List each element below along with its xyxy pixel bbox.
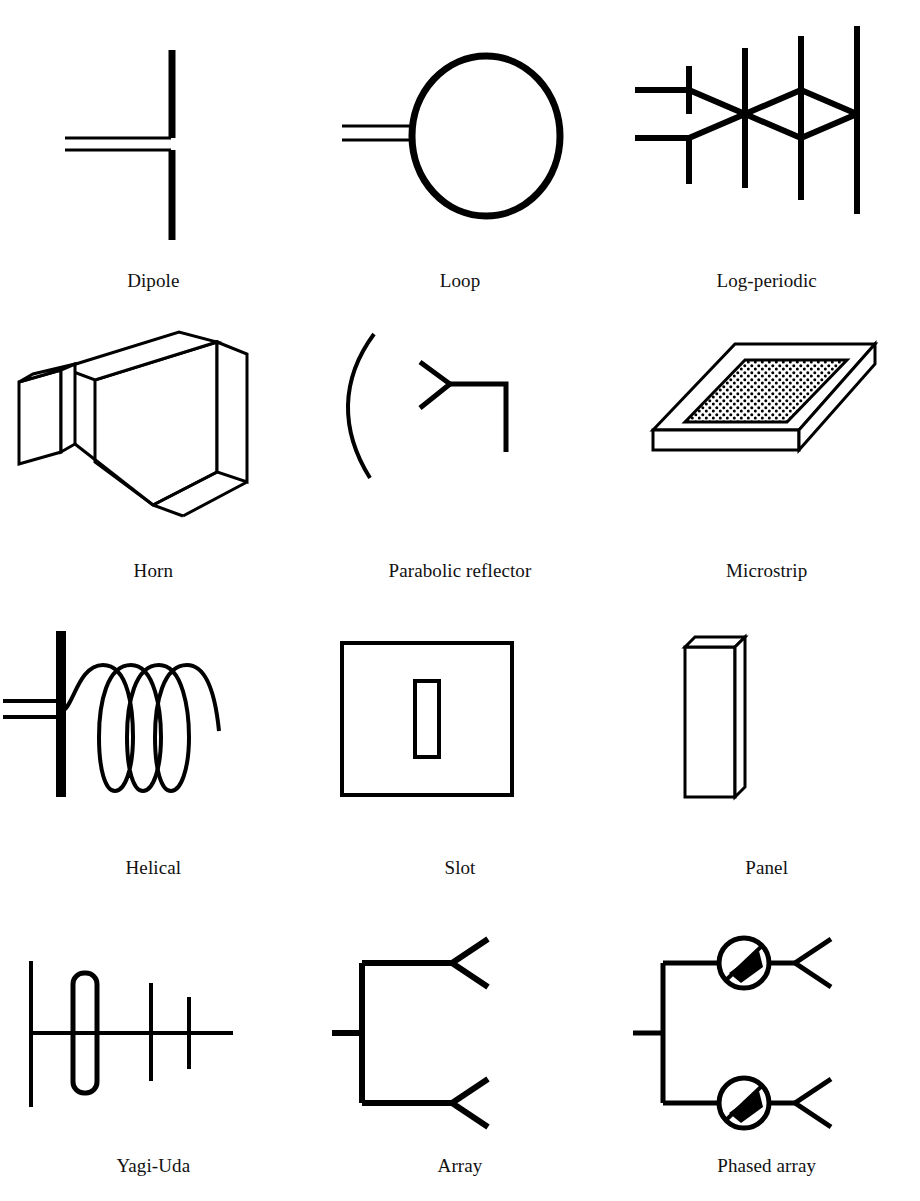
- antenna-label-log-periodic: Log-periodic: [716, 271, 816, 290]
- antenna-label-yagi-uda: Yagi-Uda: [116, 1156, 190, 1175]
- helical-antenna-icon: [3, 619, 303, 844]
- phase-shifter-icon: [719, 1078, 769, 1128]
- antenna-cell-phased-array: Phased array: [613, 901, 920, 1201]
- antenna-label-loop: Loop: [440, 271, 481, 290]
- horn-antenna-icon: [3, 322, 303, 547]
- microstrip-antenna-icon: [617, 322, 917, 547]
- antenna-label-array: Array: [438, 1156, 483, 1175]
- antenna-cell-slot: Slot: [307, 601, 614, 901]
- phased-array-antenna-icon: [617, 921, 917, 1146]
- antenna-label-slot: Slot: [444, 858, 475, 877]
- antenna-cell-helical: Helical: [0, 601, 307, 901]
- log-periodic-antenna-icon: [617, 28, 917, 253]
- parabolic-reflector-antenna-icon: [310, 322, 610, 547]
- antenna-cell-loop: Loop: [307, 0, 614, 300]
- antenna-cell-horn: Horn: [0, 300, 307, 600]
- antenna-label-horn: Horn: [134, 561, 173, 580]
- loop-antenna-icon: [310, 28, 610, 253]
- antenna-label-dipole: Dipole: [127, 271, 179, 290]
- array-antenna-icon: [310, 921, 610, 1146]
- antenna-cell-log-periodic: Log-periodic: [613, 0, 920, 300]
- antenna-label-parabolic-reflector: Parabolic reflector: [389, 561, 532, 580]
- antenna-cell-parabolic-reflector: Parabolic reflector: [307, 300, 614, 600]
- panel-antenna-icon: [617, 619, 917, 844]
- antenna-cell-yagi-uda: Yagi-Uda: [0, 901, 307, 1201]
- dipole-antenna-icon: [3, 28, 303, 253]
- antenna-cell-array: Array: [307, 901, 614, 1201]
- antenna-label-phased-array: Phased array: [717, 1156, 816, 1175]
- antenna-cell-panel: Panel: [613, 601, 920, 901]
- antenna-cell-dipole: Dipole: [0, 0, 307, 300]
- antenna-grid: Dipole Loop: [0, 0, 920, 1201]
- slot-antenna-icon: [310, 619, 610, 844]
- antenna-label-panel: Panel: [745, 858, 788, 877]
- yagi-uda-antenna-icon: [3, 921, 303, 1146]
- antenna-cell-microstrip: Microstrip: [613, 300, 920, 600]
- antenna-types-figure: Dipole Loop: [0, 0, 920, 1201]
- antenna-label-microstrip: Microstrip: [726, 561, 807, 580]
- phase-shifter-icon: [719, 938, 769, 988]
- antenna-label-helical: Helical: [126, 858, 182, 877]
